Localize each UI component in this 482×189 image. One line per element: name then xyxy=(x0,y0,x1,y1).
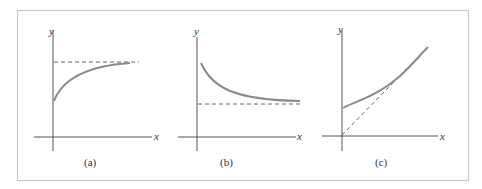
y-axis-label: y xyxy=(337,23,343,35)
x-axis-label: x xyxy=(153,130,159,142)
x-axis-label: x xyxy=(439,130,445,142)
asymptote-figure: y x (a) y x (b) y x (c) xyxy=(0,0,482,189)
panel-label: (b) xyxy=(220,156,233,169)
curve xyxy=(54,63,130,101)
panel-c: y x (c) xyxy=(322,23,445,169)
panel-b: y x (b) xyxy=(178,25,302,169)
panel-a: y x (a) xyxy=(34,25,159,169)
y-axis-label: y xyxy=(193,25,199,37)
x-axis-label: x xyxy=(296,130,302,142)
y-axis-label: y xyxy=(48,25,54,37)
panel-label: (a) xyxy=(84,156,97,169)
curve xyxy=(343,47,428,108)
curve xyxy=(201,63,300,101)
panel-label: (c) xyxy=(375,156,388,169)
